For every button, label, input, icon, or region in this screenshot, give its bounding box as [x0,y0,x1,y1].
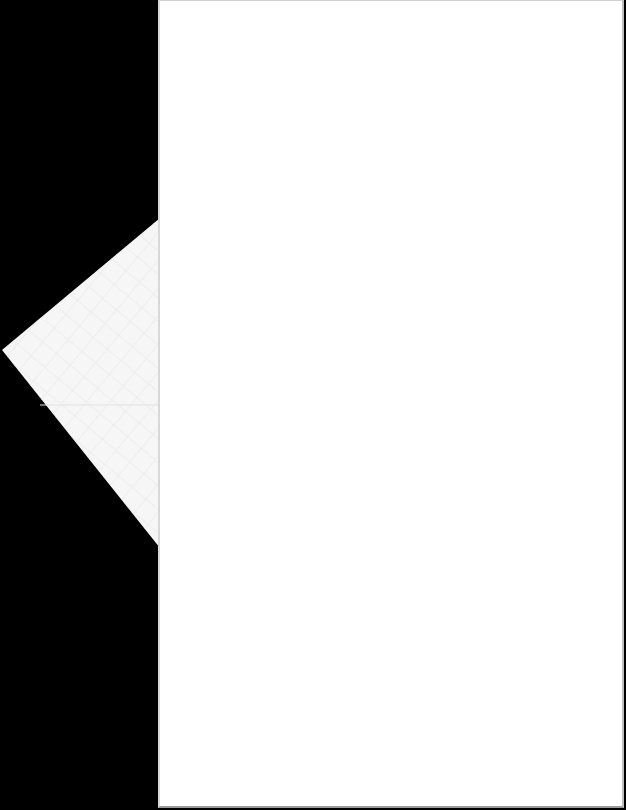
document-page [158,0,624,808]
